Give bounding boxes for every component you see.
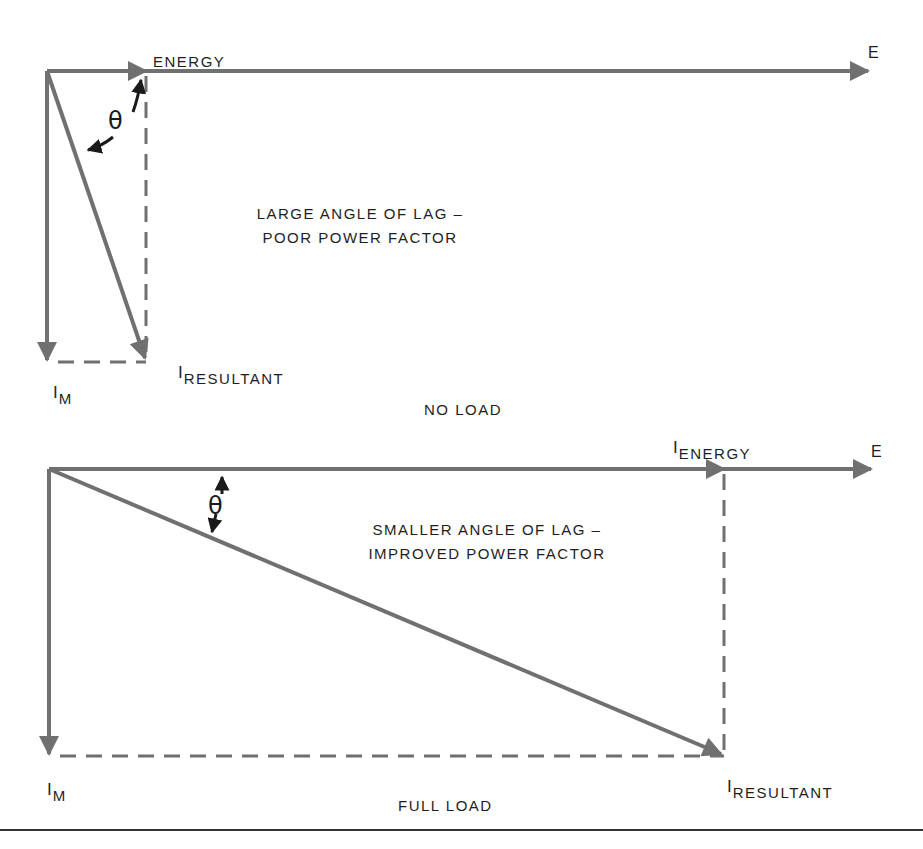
resultant-subscript: RESULTANT (733, 784, 833, 801)
energy-label: ENERGY (153, 53, 225, 70)
resultant-current-vector (49, 469, 721, 754)
caption-line-1: SMALLER ANGLE OF LAG – (352, 518, 622, 542)
caption-line-2: IMPROVED POWER FACTOR (352, 542, 622, 566)
i-prefix: I (673, 438, 678, 457)
i-resultant-label: IRESULTANT (178, 363, 284, 387)
theta-arc-arrow-lower (88, 137, 113, 150)
i-prefix: I (47, 780, 52, 799)
energy-subscript: ENERGY (679, 445, 751, 462)
i-prefix: I (727, 777, 732, 796)
resultant-current-vector (47, 71, 145, 358)
full-load-diagram (49, 469, 871, 756)
e-label: E (871, 443, 883, 461)
m-subscript: M (53, 787, 67, 804)
bottom-caption: SMALLER ANGLE OF LAG – IMPROVED POWER FA… (352, 518, 622, 566)
i-prefix: I (178, 363, 183, 382)
top-caption: LARGE ANGLE OF LAG – POOR POWER FACTOR (228, 202, 492, 250)
i-resultant-label: IRESULTANT (727, 777, 833, 801)
theta-symbol: θ (108, 107, 123, 135)
i-energy-label: IENERGY (673, 438, 751, 462)
full-load-title: FULL LOAD (398, 797, 493, 814)
phasor-diagrams (0, 0, 923, 849)
m-subscript: M (59, 390, 73, 407)
i-m-label: IM (53, 383, 73, 407)
caption-line-2: POOR POWER FACTOR (228, 226, 492, 250)
no-load-title: NO LOAD (424, 401, 502, 418)
bottom-rule (0, 829, 923, 831)
resultant-subscript: RESULTANT (184, 370, 284, 387)
i-m-label: IM (47, 780, 67, 804)
theta-symbol: θ (208, 492, 223, 520)
caption-line-1: LARGE ANGLE OF LAG – (228, 202, 492, 226)
theta-arc-arrow-upper (133, 80, 141, 112)
e-label: E (868, 44, 880, 62)
i-prefix: I (53, 383, 58, 402)
